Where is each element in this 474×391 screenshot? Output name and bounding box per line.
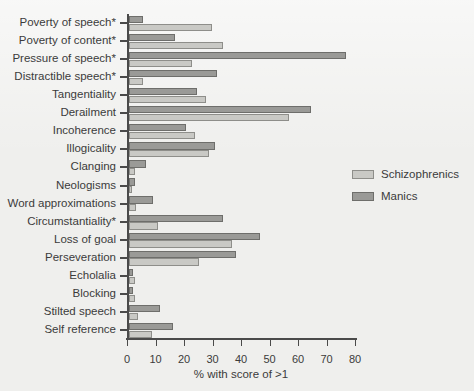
x-axis-title: % with score of >1 [127,368,355,380]
y-tick [120,293,127,295]
bar-schizophrenics [129,150,209,157]
x-tick [355,340,356,346]
category-label: Clanging [71,162,116,174]
x-tick-label: 30 [206,353,218,365]
y-tick [120,130,127,132]
x-tick [241,340,242,346]
bar-schizophrenics [129,96,206,103]
category-label: Perseveration [45,252,116,264]
x-tick [213,340,214,346]
bar-schizophrenics [129,258,199,265]
category-label: Word approximations [8,198,116,210]
x-tick-label: 0 [124,353,130,365]
bar-manics [129,323,173,330]
x-tick [270,340,271,346]
category-label: Neologisms [56,180,116,192]
bar-manics [129,106,311,113]
bar-schizophrenics [129,222,158,229]
category-label: Tangentiality [52,90,116,102]
bar-manics [129,287,133,294]
bar-manics [129,178,135,185]
y-tick [120,40,127,42]
y-tick [120,94,127,96]
bar-schizophrenics [129,295,135,302]
x-tick [156,340,157,346]
y-tick [120,203,127,205]
bar-manics [129,251,236,258]
x-tick [127,340,128,346]
bar-chart: 01020304050607080 Poverty of speech*Pove… [0,0,474,391]
bar-manics [129,52,346,59]
y-tick [120,257,127,259]
x-tick [184,340,185,346]
bar-schizophrenics [129,313,138,320]
x-tick [298,340,299,346]
category-label: Self reference [44,324,116,336]
y-tick [120,76,127,78]
bar-manics [129,124,186,131]
y-tick [120,239,127,241]
category-label: Pressure of speech* [12,53,116,65]
category-label: Blocking [73,288,116,300]
bar-schizophrenics [129,114,289,121]
bar-schizophrenics [129,204,136,211]
y-tick [120,112,127,114]
y-tick [120,275,127,277]
legend-swatch-icon [352,192,374,201]
x-tick-label: 70 [320,353,332,365]
y-tick [120,166,127,168]
bar-manics [129,16,143,23]
bar-schizophrenics [129,240,232,247]
bar-schizophrenics [129,42,223,49]
y-tick [120,329,127,331]
plot-area: 01020304050607080 Poverty of speech*Pove… [127,14,355,339]
category-label: Poverty of content* [19,35,116,47]
bar-manics [129,34,175,41]
x-tick-label: 40 [235,353,247,365]
y-tick [120,58,127,60]
legend-label: Schizophrenics [381,168,459,180]
bar-manics [129,88,197,95]
bar-manics [129,142,215,149]
legend-item-manics: Manics [352,190,459,202]
legend-item-schizophrenics: Schizophrenics [352,168,459,180]
bar-manics [129,196,153,203]
bar-manics [129,269,133,276]
bar-schizophrenics [129,24,212,31]
bar-schizophrenics [129,331,152,338]
legend-label: Manics [381,190,417,202]
y-tick [120,311,127,313]
bar-manics [129,233,260,240]
category-label: Distractible speech* [14,71,116,83]
bar-schizophrenics [129,168,135,175]
bar-manics [129,215,223,222]
category-label: Illogicality [66,144,116,156]
x-tick [327,340,328,346]
bar-schizophrenics [129,132,195,139]
category-label: Echolalia [69,270,116,282]
y-tick [120,22,127,24]
bar-manics [129,305,160,312]
chart-legend: Schizophrenics Manics [352,168,459,212]
x-tick-label: 50 [263,353,275,365]
category-label: Circumstantiality* [27,216,116,228]
x-tick-label: 20 [178,353,190,365]
category-label: Poverty of speech* [19,17,116,29]
legend-swatch-icon [352,170,374,179]
category-label: Stilted speech [44,306,116,318]
bar-schizophrenics [129,78,143,85]
bar-manics [129,70,217,77]
category-label: Incoherence [53,126,116,138]
bar-manics [129,160,146,167]
category-label: Derailment [60,108,116,120]
x-tick-label: 80 [349,353,361,365]
x-tick-label: 10 [149,353,161,365]
bar-schizophrenics [129,60,192,67]
x-tick-label: 60 [292,353,304,365]
bar-schizophrenics [129,186,132,193]
y-tick [120,185,127,187]
category-label: Loss of goal [54,234,116,246]
bar-schizophrenics [129,277,135,284]
y-tick [120,221,127,223]
y-tick [120,148,127,150]
